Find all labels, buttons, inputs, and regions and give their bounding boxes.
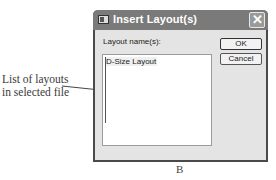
dialog-title: Insert Layout(s) [113,13,197,25]
ok-button[interactable]: OK [220,38,262,50]
cancel-button[interactable]: Cancel [220,53,262,65]
figure-caption: B [176,163,183,175]
focus-line [105,57,106,123]
list-item[interactable]: D-Size Layout [105,57,157,66]
title-bar[interactable]: Insert Layout(s) ✕ [93,10,268,30]
layout-list[interactable]: D-Size Layout [102,54,212,146]
callout-label: List of layouts in selected file [2,73,69,99]
callout-line-2: in selected file [2,86,69,99]
callout-line-1: List of layouts [2,73,69,86]
close-button[interactable]: ✕ [249,12,265,28]
layout-names-label: Layout name(s): [103,37,161,46]
layout-icon [98,15,109,24]
insert-layout-dialog: Insert Layout(s) ✕ Layout name(s): D-Siz… [93,10,268,162]
